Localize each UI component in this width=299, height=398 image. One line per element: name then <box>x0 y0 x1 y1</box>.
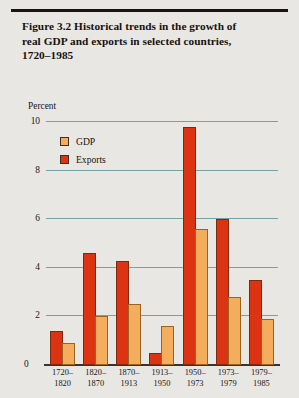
title-rule <box>11 9 288 12</box>
legend-swatch-exports-icon <box>60 155 69 164</box>
y-tick-label-8: 8 <box>35 165 40 175</box>
legend-item-exports: Exports <box>60 151 106 167</box>
legend-label-gdp: GDP <box>76 136 95 147</box>
x-tick-label-line-2: 1913 <box>120 379 137 388</box>
chart-legend: GDP Exports <box>60 133 106 169</box>
bar-gdp[interactable] <box>228 297 241 365</box>
x-tick-label-line-2: 1820 <box>54 379 71 388</box>
bar-group <box>145 121 178 365</box>
x-tick-label-line-1: 1720– <box>52 368 73 377</box>
bar-group <box>112 121 145 365</box>
bar-gdp[interactable] <box>261 319 274 365</box>
plot-area: 10 8 6 4 2 0 <box>46 121 278 365</box>
x-tick-label-line-2: 1870 <box>87 379 104 388</box>
x-tick-label: 1973– 1979 <box>212 368 245 389</box>
x-tick-label: 1720– 1820 <box>46 368 79 389</box>
x-tick-label-line-1: 1820– <box>85 368 106 377</box>
bar-gdp[interactable] <box>62 343 75 365</box>
figure-container: Figure 3.2 Historical trends in the grow… <box>0 0 299 398</box>
x-tick-label-line-1: 1950– <box>185 368 206 377</box>
x-tick-label: 1820– 1870 <box>79 368 112 389</box>
y-axis-unit-label: Percent <box>28 101 56 111</box>
x-tick-label: 1979– 1985 <box>245 368 278 389</box>
figure-title-line-1: Figure 3.2 Historical trends in the grow… <box>22 20 236 32</box>
x-tick-label-line-1: 1870– <box>118 368 139 377</box>
bar-group <box>179 121 212 365</box>
x-axis-labels: 1720– 1820 1820– 1870 1870– 1913 1913– 1… <box>46 368 278 389</box>
y-tick-label-4: 4 <box>35 262 40 272</box>
x-tick-label: 1950– 1973 <box>179 368 212 389</box>
bar-gdp[interactable] <box>128 304 141 365</box>
y-tick-label-10: 10 <box>31 116 40 126</box>
figure-title: Figure 3.2 Historical trends in the grow… <box>22 19 284 63</box>
bar-gdp[interactable] <box>195 229 208 365</box>
bar-gdp[interactable] <box>161 326 174 365</box>
legend-label-exports: Exports <box>76 154 106 165</box>
legend-item-gdp: GDP <box>60 133 106 149</box>
y-tick-label-0: 0 <box>24 359 29 369</box>
legend-swatch-gdp-icon <box>60 137 69 146</box>
x-tick-label-line-1: 1973– <box>218 368 239 377</box>
bar-gdp[interactable] <box>95 316 108 365</box>
x-tick-label-line-2: 1979 <box>220 379 237 388</box>
x-tick-label-line-2: 1973 <box>187 379 204 388</box>
figure-title-line-3: 1720–1985 <box>22 49 73 61</box>
x-tick-label: 1913– 1950 <box>145 368 178 389</box>
bar-group <box>245 121 278 365</box>
bar-group <box>212 121 245 365</box>
y-tick-label-2: 2 <box>35 310 40 320</box>
y-tick-label-6: 6 <box>35 213 40 223</box>
x-tick-label: 1870– 1913 <box>112 368 145 389</box>
x-tick-label-line-1: 1979– <box>251 368 272 377</box>
x-tick-label-line-1: 1913– <box>152 368 173 377</box>
x-tick-label-line-2: 1985 <box>253 379 270 388</box>
x-tick-label-line-2: 1950 <box>154 379 171 388</box>
figure-title-line-2: real GDP and exports in selected countri… <box>22 35 231 47</box>
